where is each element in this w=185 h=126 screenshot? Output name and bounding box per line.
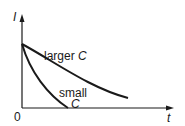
small-c-symbol: C	[71, 98, 80, 110]
origin-label: 0	[14, 111, 21, 123]
discharge-graph	[0, 0, 185, 126]
y-axis-label: I	[13, 11, 16, 23]
larger-c-label-text: larger	[44, 49, 78, 63]
x-axis-arrow-icon	[166, 106, 174, 111]
larger-c-symbol: C	[78, 49, 87, 63]
y-axis-arrow-icon	[20, 14, 25, 22]
larger-c-label: larger C	[44, 50, 87, 62]
x-axis-label: t	[167, 112, 170, 124]
